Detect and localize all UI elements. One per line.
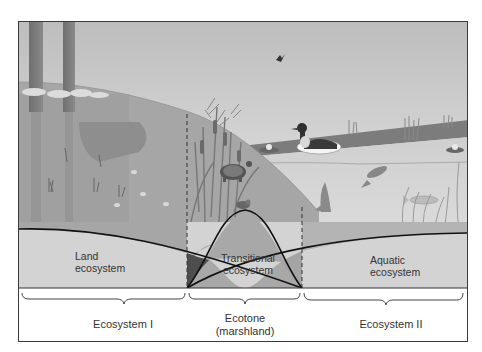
ecosystem-2-label: Ecosystem II	[337, 318, 445, 331]
tree-trunk-1	[29, 22, 43, 112]
land-label-line1: Land	[75, 250, 125, 262]
transitional-label-line1: Transitional	[217, 252, 279, 264]
scene-illustration	[19, 22, 468, 342]
ecosystem-1-label: Ecosystem I	[59, 318, 187, 331]
land-label-line2: ecosystem	[75, 262, 125, 274]
tree-trunk-2	[63, 22, 75, 112]
ecotone-figure: Land ecosystem Transitional ecosystem Aq…	[18, 21, 468, 342]
aquatic-ecosystem-label: Aquatic ecosystem	[370, 254, 420, 278]
ecotone-label-line2: (marshland)	[203, 325, 287, 338]
transitional-ecosystem-label: Transitional ecosystem	[217, 252, 279, 276]
land-ecosystem-label: Land ecosystem	[75, 250, 125, 274]
aquatic-label-line1: Aquatic	[370, 254, 420, 266]
ecotone-label-line1: Ecotone	[203, 312, 287, 325]
aquatic-label-line2: ecosystem	[370, 266, 420, 278]
transitional-label-line2: ecosystem	[217, 264, 279, 276]
ecotone-label: Ecotone (marshland)	[203, 312, 287, 338]
